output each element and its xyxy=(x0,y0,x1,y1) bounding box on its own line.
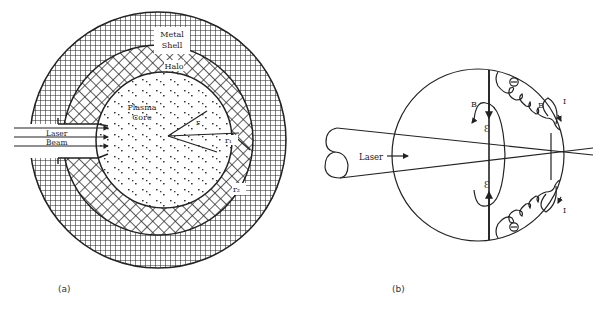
beam-label: Beam xyxy=(46,138,68,147)
electron-helix-top xyxy=(496,72,560,130)
r-label: r xyxy=(196,118,200,127)
plasma-core-label-2: Core xyxy=(132,113,152,122)
b-label-right: B xyxy=(538,101,544,110)
current-label-bottom: I xyxy=(563,206,566,215)
current-label-top: I xyxy=(563,97,566,106)
metal-shell-label-1: Metal xyxy=(160,30,184,39)
panel-a-diagram: Metal Shell Halo Plasma Core Laser Beam … xyxy=(14,12,286,268)
b-label-left: B xyxy=(471,100,477,109)
caption-b: (b) xyxy=(392,284,405,294)
plasma-core xyxy=(96,72,232,208)
e-field-label-bottom: Ɛ xyxy=(484,180,490,190)
r2-label: r₂ xyxy=(233,185,240,194)
halo-label: Halo xyxy=(164,62,183,71)
laser-label: Laser xyxy=(46,129,68,138)
caption-a: (a) xyxy=(58,284,71,294)
metal-shell-label-2: Shell xyxy=(162,41,183,50)
figure-canvas: Metal Shell Halo Plasma Core Laser Beam … xyxy=(0,0,601,315)
laser-label-b: Laser xyxy=(359,152,384,162)
e-field-label-top: Ɛ xyxy=(484,124,490,134)
plasma-core-label-1: Plasma xyxy=(127,103,156,112)
r1-label: r₁ xyxy=(225,136,232,145)
